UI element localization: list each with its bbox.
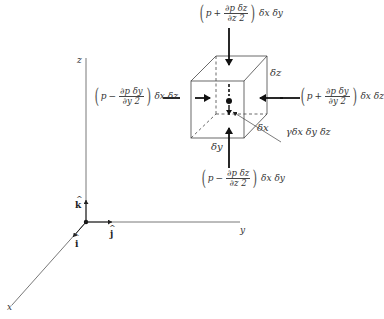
right-force-equation: ( p + ∂p δy ∂y 2 ) δx δz — [299, 86, 384, 106]
cube-edge — [244, 56, 267, 81]
fraction-numerator: ∂p δy — [119, 87, 143, 97]
pressure-force-arrows — [163, 28, 300, 168]
fraction-numerator: ∂p δz — [226, 169, 250, 179]
fraction: ∂p δz ∂z 2 — [224, 4, 248, 23]
pressure-symbol: p — [307, 91, 313, 101]
i-unit-label: i — [75, 240, 78, 249]
center-of-mass-dot — [226, 98, 232, 104]
cube-hidden-edge — [191, 114, 216, 138]
operator: + — [315, 91, 323, 101]
operator: − — [109, 91, 117, 101]
j-unit-label: j — [110, 230, 113, 239]
close-paren: ) — [251, 3, 256, 23]
dx-dimension-label: δx — [257, 123, 269, 133]
pressure-symbol: p — [208, 173, 214, 183]
fraction: ∂p δy ∂y 2 — [325, 87, 349, 106]
operator: + — [214, 8, 222, 18]
weight-label: γδx δy δz — [286, 127, 331, 137]
close-paren: ) — [253, 168, 258, 188]
close-paren: ) — [352, 86, 357, 106]
cube-front-face — [191, 81, 244, 138]
operator: − — [216, 173, 224, 183]
dy-dimension-label: δy — [211, 142, 223, 152]
area-term: δx δy — [259, 8, 283, 18]
fluid-element-cube — [191, 56, 267, 138]
fraction-denominator: ∂z 2 — [227, 14, 246, 23]
dz-dimension-label: δz — [270, 68, 281, 78]
k-unit-label: k — [75, 201, 81, 210]
y-axis-label: y — [240, 226, 245, 235]
open-paren: ( — [301, 86, 306, 106]
open-paren: ( — [202, 168, 207, 188]
left-force-equation: ( p − ∂p δy ∂y 2 ) δx δz — [93, 86, 178, 106]
area-term: δx δz — [360, 91, 384, 101]
fraction: ∂p δy ∂y 2 — [119, 87, 143, 106]
pressure-symbol: p — [206, 8, 212, 18]
area-term: δx δy — [261, 173, 285, 183]
cube-edge — [191, 56, 216, 81]
fraction-numerator: ∂p δz — [224, 4, 248, 14]
pressure-symbol: p — [101, 91, 107, 101]
bottom-force-equation: ( p − ∂p δz ∂z 2 ) δx δy — [200, 168, 285, 188]
x-axis-label: x — [7, 303, 12, 312]
close-paren: ) — [146, 86, 151, 106]
open-paren: ( — [200, 3, 205, 23]
fraction-denominator: ∂y 2 — [328, 97, 347, 106]
fraction: ∂p δz ∂z 2 — [226, 169, 250, 188]
top-force-equation: ( p + ∂p δz ∂z 2 ) δx δy — [198, 3, 283, 23]
fraction-denominator: ∂z 2 — [229, 179, 248, 188]
area-term: δx δz — [154, 91, 178, 101]
fraction-denominator: ∂y 2 — [122, 97, 141, 106]
open-paren: ( — [95, 86, 100, 106]
z-axis-label: z — [77, 56, 82, 65]
fraction-numerator: ∂p δy — [325, 87, 349, 97]
center-markers — [226, 84, 281, 142]
